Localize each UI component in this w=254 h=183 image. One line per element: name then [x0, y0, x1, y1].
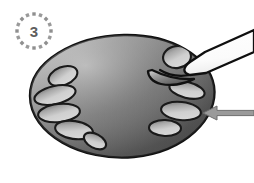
ring-dash: [16, 22, 20, 26]
ring-dash: [25, 44, 29, 48]
ring-dash: [44, 41, 49, 46]
figure-root: 3: [0, 0, 254, 183]
cell-diagram-illustration: 3: [0, 0, 254, 183]
ring-dash: [20, 41, 25, 46]
ring-dash: [47, 22, 51, 26]
ring-dash: [16, 35, 20, 39]
ring-dash: [32, 46, 35, 49]
pipette-shaft: [184, 30, 254, 75]
ring-dash: [47, 35, 51, 39]
organelle-9: [149, 119, 182, 136]
step-badge: 3: [15, 12, 52, 49]
ring-dash: [15, 29, 18, 32]
step-number-label: 3: [30, 23, 38, 40]
ring-dash: [32, 12, 35, 15]
ring-dash: [44, 17, 49, 22]
ring-dash: [20, 17, 25, 22]
ring-dash: [25, 13, 29, 17]
ring-dash: [38, 13, 42, 17]
ring-dash: [38, 44, 42, 48]
ring-dash: [49, 29, 52, 32]
